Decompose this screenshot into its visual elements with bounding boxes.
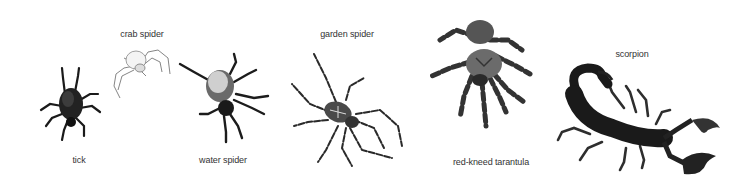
- red-kneed-tarantula-label: red-kneed tarantula: [453, 157, 529, 167]
- tick-label: tick: [72, 155, 85, 165]
- water-spider-label: water spider: [199, 155, 247, 165]
- garden-spider-illustration: [290, 50, 414, 172]
- scorpion-label: scorpion: [615, 49, 648, 59]
- water-spider-illustration: [176, 52, 272, 146]
- garden-spider-label: garden spider: [320, 29, 374, 39]
- scorpion-illustration: [552, 64, 728, 182]
- tick-illustration: [38, 64, 104, 144]
- crab-spider-illustration: [110, 46, 172, 104]
- crab-spider-label: crab spider: [120, 29, 163, 39]
- red-kneed-tarantula-illustration: [424, 16, 536, 130]
